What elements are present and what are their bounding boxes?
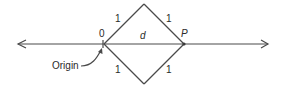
origin-pointer-arrow: [81, 50, 101, 66]
origin-zero-label: 0: [99, 28, 105, 39]
edge-top-left-label: 1: [115, 13, 121, 24]
edge-bottom-left: [104, 44, 144, 84]
distance-d-label: d: [140, 30, 146, 41]
edge-top-left: [104, 4, 144, 44]
edge-bottom-right: [144, 44, 184, 84]
point-p-label: P: [181, 28, 188, 39]
point-p-marker: [182, 42, 185, 45]
edge-top-right-label: 1: [166, 13, 172, 24]
edge-bottom-right-label: 1: [166, 64, 172, 75]
origin-caption: Origin: [52, 60, 79, 71]
edge-bottom-left-label: 1: [115, 64, 121, 75]
diagram-canvas: 0 P d 1 1 1 1 Origin: [0, 0, 282, 90]
edge-top-right: [144, 4, 184, 44]
